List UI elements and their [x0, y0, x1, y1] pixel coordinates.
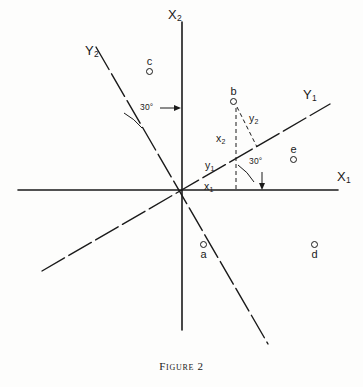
y2-coordinate-label: y2	[249, 113, 259, 125]
point-a-marker	[200, 241, 207, 248]
angle-arrowhead-lower-right	[259, 183, 265, 190]
point-e-marker	[290, 156, 297, 163]
point-a-label: a	[200, 249, 206, 260]
y1-coordinate-label: y1	[205, 160, 215, 172]
point-e: e	[290, 144, 297, 164]
point-d-label: d	[311, 249, 317, 260]
y1-axis-label: Y1	[303, 88, 317, 103]
angle-arrowhead-upper-left	[174, 105, 181, 111]
point-d-marker	[311, 241, 318, 248]
point-c-label: c	[147, 56, 153, 67]
figure-container: X2 X1 Y1 Y2 30° 30° x1 x2 y1 y2 a b c d	[0, 0, 363, 387]
y2-axis-label: Y2	[85, 44, 99, 59]
point-d: d	[311, 240, 318, 260]
x1-axis-label: X1	[337, 170, 351, 185]
x2-coordinate-label: x2	[216, 133, 226, 145]
point-b-marker	[230, 98, 237, 105]
x2-axis-label: X2	[168, 8, 182, 23]
figure-drawing	[0, 0, 363, 387]
figure-caption: Figure 2	[0, 360, 363, 372]
angle-arc-lower-right	[238, 165, 254, 182]
point-e-label: e	[290, 144, 296, 155]
x1-coordinate-label: x1	[204, 181, 214, 193]
point-c: c	[146, 56, 153, 76]
angle-label-upper-left: 30°	[140, 103, 153, 112]
y1-axis-line	[42, 104, 330, 271]
point-b-label: b	[230, 86, 236, 97]
point-b: b	[230, 86, 237, 106]
point-a: a	[200, 240, 207, 260]
angle-label-lower-right: 30°	[249, 157, 262, 166]
point-c-marker	[146, 68, 153, 75]
